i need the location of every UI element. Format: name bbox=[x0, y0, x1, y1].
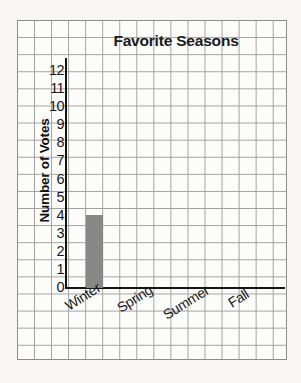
x-tick-label: Fall bbox=[225, 286, 252, 311]
chart-page: Favorite Seasons Number of Votes 0123456… bbox=[0, 0, 301, 383]
x-tick-label: Winter bbox=[62, 280, 103, 314]
bar-chart: Favorite Seasons Number of Votes 0123456… bbox=[0, 0, 301, 383]
x-axis-tick-labels: WinterSpringSummerFall bbox=[0, 0, 301, 383]
x-tick-label: Summer bbox=[160, 282, 212, 323]
x-tick-label: Spring bbox=[114, 282, 155, 316]
